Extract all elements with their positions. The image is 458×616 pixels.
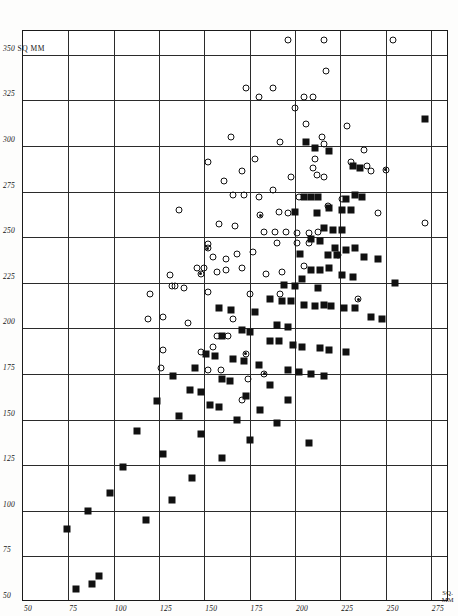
- data-point-filled-square: [219, 454, 226, 461]
- data-point-filled-square: [228, 307, 235, 314]
- data-point-open-circle: [241, 192, 248, 199]
- data-point-filled-square: [311, 303, 318, 310]
- data-point-filled-square: [320, 225, 327, 232]
- data-point-filled-square: [326, 347, 333, 354]
- y-tick-label-100: 100: [3, 500, 15, 510]
- data-point-open-circle: [223, 266, 230, 273]
- x-tick-label-75: 75: [69, 604, 77, 613]
- data-point-filled-square: [246, 329, 253, 336]
- data-point-filled-square: [306, 440, 313, 447]
- data-point-filled-square: [308, 194, 315, 201]
- data-point-filled-square: [317, 237, 324, 244]
- data-point-open-circle: [246, 290, 253, 297]
- data-point-open-circle: [181, 285, 188, 292]
- data-point-filled-square: [317, 345, 324, 352]
- data-point-filled-square: [266, 296, 273, 303]
- data-point-filled-square: [197, 389, 204, 396]
- data-point-open-circle: [204, 159, 211, 166]
- data-point-open-circle: [184, 319, 191, 326]
- data-point-open-circle: [242, 84, 249, 91]
- data-point-filled-square: [252, 308, 259, 315]
- data-point-filled-square: [422, 115, 429, 122]
- data-point-filled-square: [215, 305, 222, 312]
- y-tick-label-350: 350 SQ MM: [3, 44, 45, 54]
- data-point-filled-square: [134, 427, 141, 434]
- data-point-filled-square: [342, 195, 349, 202]
- data-point-filled-square: [331, 245, 338, 252]
- data-point-open-circle: [255, 194, 262, 201]
- data-point-circle-with-dot: [355, 296, 362, 303]
- data-point-filled-square: [348, 206, 355, 213]
- data-point-filled-square: [342, 246, 349, 253]
- data-point-filled-square: [360, 254, 367, 261]
- data-point-open-circle: [313, 172, 320, 179]
- data-point-filled-square: [349, 162, 356, 169]
- data-point-filled-square: [324, 252, 331, 259]
- data-point-open-circle: [228, 133, 235, 140]
- data-point-filled-square: [339, 206, 346, 213]
- y-tick-label-125: 125: [3, 454, 15, 464]
- data-point-filled-square: [219, 376, 226, 383]
- data-point-open-circle: [389, 37, 396, 44]
- data-point-open-circle: [146, 290, 153, 297]
- data-point-circle-with-dot: [242, 350, 249, 357]
- data-point-open-circle: [288, 173, 295, 180]
- data-point-open-circle: [277, 139, 284, 146]
- data-point-filled-square: [233, 416, 240, 423]
- x-axis-unit-label: SQ. MM: [442, 590, 454, 604]
- data-point-filled-square: [281, 281, 288, 288]
- data-point-filled-square: [63, 526, 70, 533]
- x-tick-label-225: 225: [341, 604, 353, 613]
- data-point-filled-square: [357, 164, 364, 171]
- data-point-filled-square: [320, 301, 327, 308]
- data-point-open-circle: [300, 263, 307, 270]
- y-tick-label-175: 175: [3, 363, 15, 373]
- data-point-filled-square: [159, 451, 166, 458]
- x-tick-label-100: 100: [115, 604, 127, 613]
- data-point-open-circle: [233, 250, 240, 257]
- y-tick-label-300: 300: [3, 135, 15, 145]
- data-point-filled-square: [299, 276, 306, 283]
- data-point-filled-square: [273, 321, 280, 328]
- data-point-open-circle: [368, 168, 375, 175]
- gridline-vertical: [340, 31, 341, 600]
- gridline-horizontal: [23, 55, 447, 56]
- data-point-filled-square: [368, 314, 375, 321]
- data-point-circle-with-dot: [257, 212, 264, 219]
- data-point-open-circle: [275, 208, 282, 215]
- data-point-filled-square: [266, 381, 273, 388]
- data-point-open-circle: [172, 283, 179, 290]
- data-point-open-circle: [284, 210, 291, 217]
- data-point-filled-square: [241, 358, 248, 365]
- data-point-filled-square: [284, 323, 291, 330]
- data-point-filled-square: [315, 285, 322, 292]
- data-point-filled-square: [192, 365, 199, 372]
- x-tick-label-150: 150: [205, 604, 217, 613]
- data-point-filled-square: [375, 256, 382, 263]
- data-point-filled-square: [230, 356, 237, 363]
- data-point-open-circle: [250, 248, 257, 255]
- data-point-filled-square: [300, 301, 307, 308]
- data-point-filled-square: [378, 316, 385, 323]
- data-point-open-circle: [291, 104, 298, 111]
- data-point-filled-square: [186, 387, 193, 394]
- x-tick-label-275: 275: [432, 604, 444, 613]
- data-point-filled-square: [284, 396, 291, 403]
- data-point-filled-square: [339, 272, 346, 279]
- data-point-open-circle: [261, 228, 268, 235]
- gridline-horizontal: [23, 100, 447, 101]
- data-point-filled-square: [206, 401, 213, 408]
- data-point-open-circle: [293, 230, 300, 237]
- data-point-open-circle: [210, 254, 217, 261]
- gridline-horizontal: [23, 465, 447, 466]
- y-tick-label-75: 75: [3, 545, 11, 555]
- data-point-open-circle: [284, 37, 291, 44]
- data-point-open-circle: [159, 314, 166, 321]
- plot-area: [22, 30, 448, 601]
- data-point-filled-square: [170, 372, 177, 379]
- gridline-horizontal: [23, 146, 447, 147]
- gridline-vertical: [431, 31, 432, 600]
- data-point-filled-square: [72, 586, 79, 593]
- data-point-circle-with-dot: [261, 370, 268, 377]
- data-point-filled-square: [326, 204, 333, 211]
